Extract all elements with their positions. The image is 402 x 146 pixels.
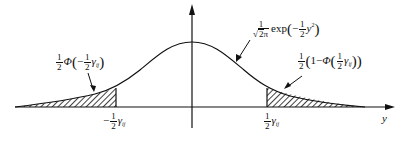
left-tail-shaded-region [15, 88, 116, 107]
x-axis-arrow-icon [385, 104, 395, 110]
curve-label-leader [236, 40, 250, 62]
left-threshold-tick-label: −12γij [103, 112, 125, 131]
curve-coef-fraction: 1 √2π [252, 20, 270, 39]
right-tail-label: 12(1−Φ(12γij)) [297, 52, 362, 71]
left-label-leader [88, 73, 96, 92]
curve-formula-label: 1 √2π exp(−12y2) [251, 20, 320, 39]
x-axis-label: y [382, 113, 387, 124]
right-label-leader [284, 76, 302, 89]
right-threshold-tick-label: 12γij [263, 112, 279, 131]
right-tail-shaded-region [267, 88, 365, 107]
left-tail-label: 12Φ(−12γij) [55, 53, 104, 72]
normal-distribution-diagram [0, 0, 402, 146]
y-axis-arrow-icon [189, 4, 195, 15]
